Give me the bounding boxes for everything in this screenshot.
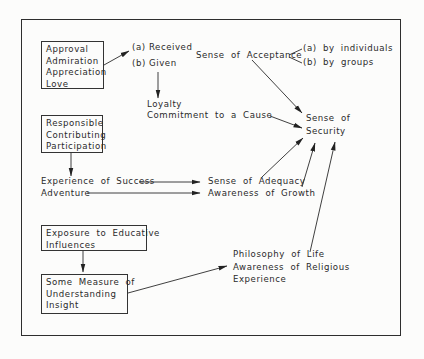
exposure-box: Exposure to Educative Influences [41, 225, 147, 251]
box-line: Admiration [46, 56, 99, 68]
label-received: (a) Received [132, 42, 192, 54]
box-line: Responsible [46, 118, 98, 130]
label-by-individuals: (a) by individuals [303, 43, 393, 55]
label-adventure: Adventure [41, 188, 90, 200]
label-sense-of-security-2: Security [306, 126, 346, 138]
box-line: Exposure to Educative [46, 228, 142, 240]
label-awareness-of-religious: Awareness of Religious [233, 262, 350, 274]
box-line: Contributing [46, 130, 98, 142]
label-awareness-of-growth: Awareness of Growth [208, 188, 315, 200]
box-line: Insight [46, 300, 123, 312]
label-philosophy-of-life: Philosophy of Life [233, 249, 325, 261]
label-sense-of-security-1: Sense of [306, 113, 350, 125]
responsible-box: Responsible Contributing Participation [41, 115, 103, 153]
arrow-understanding-to-philosophy [128, 266, 227, 293]
label-sense-of-acceptance: Sense of Acceptance [196, 50, 302, 62]
label-sense-of-adequacy: Sense of Adequacy [208, 176, 306, 188]
arrow-acceptance-to-security [252, 60, 302, 113]
understanding-box: Some Measure of Understanding Insight [41, 274, 128, 314]
box-line: Understanding [46, 289, 123, 301]
label-experience: Experience [233, 274, 286, 286]
label-by-groups: (b) by groups [303, 57, 374, 69]
box-line: Appreciation [46, 67, 99, 79]
label-experience-of-success: Experience of Success [41, 176, 155, 188]
box-line: Some Measure of [46, 277, 123, 289]
diagram-page: Approval Admiration Appreciation Love Re… [0, 0, 424, 359]
box-line: Love [46, 79, 99, 91]
box-line: Influences [46, 240, 142, 252]
label-loyalty: Loyalty [147, 99, 182, 111]
approval-box: Approval Admiration Appreciation Love [41, 41, 104, 89]
arrow-approval-to-received [104, 51, 129, 65]
label-commitment: Commitment to a Cause [147, 110, 272, 122]
box-line: Participation [46, 141, 98, 153]
box-line: Approval [46, 44, 99, 56]
arrow-commitment-to-security [270, 116, 302, 128]
label-given: (b) Given [132, 58, 177, 70]
arrow-adequacy-to-security [262, 138, 303, 177]
